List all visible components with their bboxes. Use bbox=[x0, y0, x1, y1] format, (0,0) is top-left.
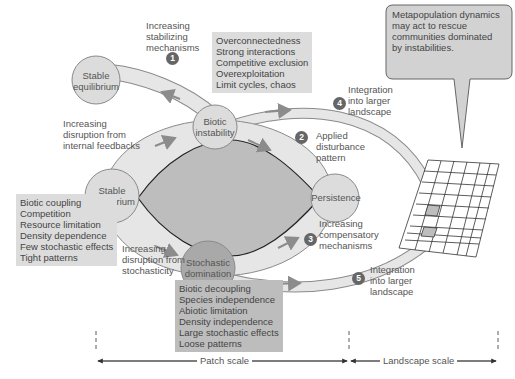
pathway-2-badge: 2 bbox=[295, 131, 308, 144]
landscape-scale-label: Landscape scale bbox=[380, 355, 457, 366]
equilibrium-traits-box: Biotic coupling Competition Resource lim… bbox=[16, 194, 117, 266]
pathway-5-badge: 5 bbox=[352, 272, 365, 285]
patch-scale-label: Patch scale bbox=[197, 355, 252, 366]
pathway-1-label: Increasing stabilizing mechanisms bbox=[146, 20, 199, 53]
pathway-5-label: Integration into larger landscape bbox=[370, 264, 415, 297]
diagram-canvas: Stable equilibrium Biotic instability St… bbox=[0, 0, 515, 379]
landscape-grid bbox=[399, 160, 499, 257]
pathway-2-label: Applied disturbance pattern bbox=[316, 130, 365, 163]
stochastic-disruption-label: Increasing disruption from stochasticity bbox=[122, 243, 185, 276]
pathway-4-label: Integration into larger landscape bbox=[348, 84, 393, 117]
pathway-3-badge: 3 bbox=[304, 233, 317, 246]
instability-traits-box: Overconnectedness Strong interactions Co… bbox=[212, 32, 312, 93]
pathway-3-label: Increasing compensatory mechanisms bbox=[319, 218, 379, 251]
internal-disruption-label: Increasing disruption from internal feed… bbox=[63, 118, 140, 151]
pathway-4-badge: 4 bbox=[333, 97, 346, 110]
pathway-1-badge: 1 bbox=[166, 52, 179, 65]
node-label-stochastic: Stochastic domination bbox=[181, 257, 235, 279]
stochastic-traits-box: Biotic decoupling Species independence A… bbox=[175, 280, 283, 352]
node-label-persistence: Persistence bbox=[308, 192, 364, 203]
node-label-biotic-instability: Biotic instability bbox=[192, 116, 238, 138]
node-label-stable-top: Stable equilibrium bbox=[71, 70, 121, 92]
metapopulation-callout: Metapopulation dynamics may act to rescu… bbox=[392, 9, 500, 53]
